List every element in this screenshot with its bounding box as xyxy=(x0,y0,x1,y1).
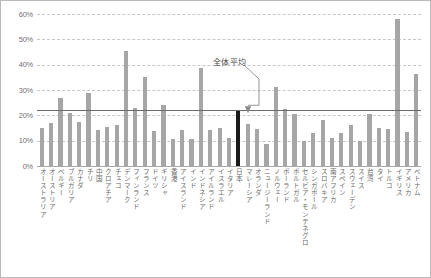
bar xyxy=(405,132,409,166)
bar xyxy=(40,128,44,166)
x-axis-tick-label: セルビア・モンテネグロ xyxy=(300,168,307,246)
x-axis-tick-label: ノルウェー xyxy=(272,168,279,204)
bar xyxy=(143,77,147,166)
bar xyxy=(77,122,81,166)
x-axis-tick-label: 中国 xyxy=(94,168,101,182)
x-axis-tick-label: スイス xyxy=(357,168,364,189)
bar xyxy=(339,133,343,166)
bar xyxy=(189,139,193,166)
bar xyxy=(349,125,353,166)
average-reference-line xyxy=(37,110,421,111)
x-axis-tick-label: スウェーデン xyxy=(347,168,354,211)
x-axis-tick-label: インド xyxy=(188,168,195,189)
x-axis-tick-label: カナダ xyxy=(76,168,83,189)
x-axis-tick-label: スロバキア xyxy=(319,168,326,204)
bar xyxy=(218,128,222,167)
bar xyxy=(377,128,381,166)
x-axis-tick-label: ニュージーランド xyxy=(263,168,270,225)
bar xyxy=(171,139,175,166)
x-axis-tick-label: イタリア xyxy=(225,168,232,196)
bar xyxy=(86,93,90,166)
y-axis-tick-label: 50% xyxy=(3,35,33,44)
x-axis-tick-label: ブルガリア xyxy=(66,168,73,204)
x-axis-tick-label: マレーシア xyxy=(244,168,251,204)
x-axis-tick-label: スペイン xyxy=(338,168,345,196)
bar xyxy=(358,141,362,166)
x-axis-tick-label: アイスランド xyxy=(179,168,186,211)
bar xyxy=(49,123,53,166)
x-axis-tick-label: 南アフリカ xyxy=(328,168,335,204)
y-axis-tick-label: 40% xyxy=(3,60,33,69)
bar xyxy=(161,105,165,166)
bar xyxy=(105,127,109,166)
bar xyxy=(292,114,296,166)
bar xyxy=(115,125,119,166)
y-axis-tick-label: 30% xyxy=(3,86,33,95)
x-axis-category-labels: オーストラリアオーストリアベルギーブルガリアカナダチリ中国クロアチアチェコデンマ… xyxy=(37,168,421,273)
x-axis-tick-label: チェコ xyxy=(113,168,120,189)
x-axis-tick-label: ポーランド xyxy=(282,168,289,204)
bar xyxy=(124,51,128,166)
x-axis-tick-label: ベトナム xyxy=(413,168,420,196)
bar xyxy=(133,108,137,166)
x-axis-tick-label: 日本 xyxy=(235,168,242,182)
x-axis-line xyxy=(37,166,421,167)
x-axis-tick-label: イギリス xyxy=(394,168,401,196)
bar xyxy=(208,130,212,166)
bar xyxy=(283,109,287,166)
x-axis-tick-label: シンガポール xyxy=(310,168,317,211)
bar xyxy=(330,138,334,166)
bar xyxy=(264,144,268,166)
bar xyxy=(302,141,306,166)
bar xyxy=(68,113,72,166)
bar xyxy=(386,129,390,166)
bar xyxy=(395,19,399,166)
x-axis-tick-label: ドイツ xyxy=(150,168,157,189)
bar xyxy=(180,130,184,166)
bar-series xyxy=(37,14,421,166)
plot-area xyxy=(37,14,421,166)
bar xyxy=(311,133,315,166)
x-axis-tick-label: 香港 xyxy=(169,168,176,182)
x-axis-tick-label: デンマーク xyxy=(122,168,129,204)
bar xyxy=(367,114,371,166)
x-axis-tick-label: ギリシャ xyxy=(160,168,167,196)
bar xyxy=(274,87,278,166)
x-axis-tick-label: ポルトガル xyxy=(291,168,298,204)
bar xyxy=(227,138,231,166)
chart-container: 60%50%40%30%20%10%0% 全体平均 オーストラリアオーストリアベ… xyxy=(0,0,431,278)
x-axis-tick-label: アメリカ xyxy=(403,168,410,196)
bar xyxy=(96,130,100,166)
x-axis-tick-label: タイ xyxy=(375,168,382,182)
x-axis-tick-label: ベルギー xyxy=(57,168,64,196)
x-axis-tick-label: オーストリア xyxy=(47,168,54,211)
x-axis-tick-label: アイルランド xyxy=(207,168,214,211)
bar xyxy=(58,98,62,166)
x-axis-tick-label: フランス xyxy=(141,168,148,196)
bar xyxy=(321,120,325,166)
y-axis-tick-label: 60% xyxy=(3,10,33,19)
average-annotation-label: 全体平均 xyxy=(213,56,246,67)
x-axis-tick-label: オーストラリア xyxy=(38,168,45,218)
x-axis-tick-label: フィンランド xyxy=(132,168,139,211)
bar xyxy=(199,68,203,166)
y-axis-tick-label: 10% xyxy=(3,136,33,145)
x-axis-tick-label: クロアチア xyxy=(104,168,111,204)
y-axis-tick-label: 20% xyxy=(3,111,33,120)
bar xyxy=(414,74,418,166)
bar xyxy=(246,124,250,166)
x-axis-tick-label: イスラエル xyxy=(216,168,223,204)
bar xyxy=(255,129,259,166)
x-axis-tick-label: インドネシア xyxy=(197,168,204,211)
bar xyxy=(152,131,156,166)
x-axis-tick-label: オランダ xyxy=(253,168,260,196)
x-axis-tick-label: トルコ xyxy=(385,168,392,189)
x-axis-tick-label: 台湾 xyxy=(366,168,373,182)
x-axis-tick-label: チリ xyxy=(85,168,92,182)
y-axis-tick-label: 0% xyxy=(3,162,33,171)
bar xyxy=(236,110,240,166)
